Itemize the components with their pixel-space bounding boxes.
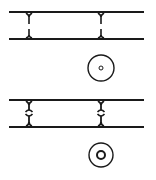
panel-top bbox=[9, 12, 144, 81]
top-connector-right bbox=[98, 13, 104, 38]
center-dot-icon bbox=[99, 66, 103, 70]
inner-ring-icon bbox=[97, 151, 105, 159]
top-connector-left bbox=[26, 13, 32, 38]
circle-dot-symbol bbox=[88, 55, 114, 81]
circle-ring-symbol bbox=[89, 143, 113, 167]
outer-circle-icon bbox=[88, 55, 114, 81]
bottom-connector-left bbox=[26, 101, 33, 126]
bottom-connector-right bbox=[98, 101, 105, 126]
outer-circle-icon bbox=[89, 143, 113, 167]
panel-bottom bbox=[9, 100, 144, 167]
diagram-canvas bbox=[0, 0, 156, 180]
